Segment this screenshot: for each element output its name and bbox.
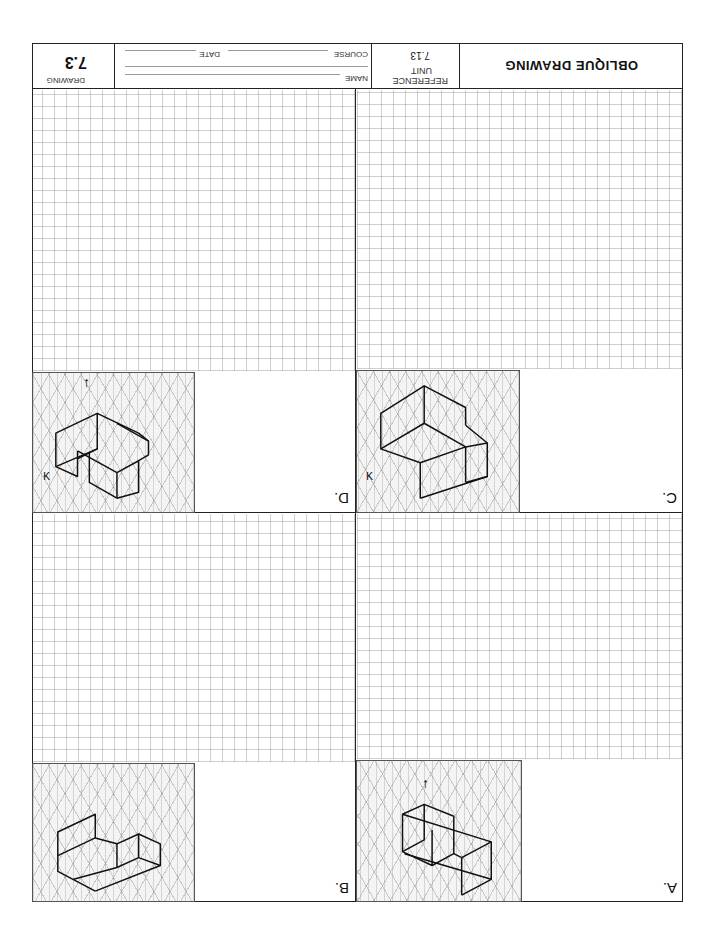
panel-c-isometric-view: K bbox=[356, 370, 520, 513]
panel-b-graph-paper[interactable] bbox=[33, 514, 355, 762]
drawing-label: DRAWING bbox=[47, 76, 85, 85]
panel-d-direction-arrow-icon: ↑ bbox=[83, 374, 90, 390]
reference-cell: REFERENCE UNIT 7.13 bbox=[372, 43, 460, 89]
panel-d-isometric-view: ↑ K bbox=[32, 372, 195, 513]
panel-a-isometric-view: ↑ bbox=[356, 760, 522, 902]
panel-a-direction-arrow-icon: ↑ bbox=[422, 775, 429, 791]
panel-b-object-drawing bbox=[33, 764, 194, 901]
oblique-drawing-worksheet: OBLIQUE DRAWING REFERENCE UNIT 7.13 NAME… bbox=[0, 0, 715, 945]
unit-label: UNIT bbox=[411, 66, 432, 76]
panel-c-k-mark-icon: K bbox=[366, 471, 373, 482]
date-label: DATE bbox=[199, 50, 220, 59]
drawing-number: 7.3 bbox=[65, 53, 87, 71]
panel-b-isometric-view bbox=[32, 763, 195, 902]
date-field[interactable] bbox=[125, 50, 196, 51]
panel-d-label: D. bbox=[334, 490, 349, 507]
drawing-number-cell: DRAWING 7.3 bbox=[32, 43, 115, 89]
name-field-line-2 bbox=[125, 66, 368, 67]
course-label: COURSE bbox=[334, 50, 368, 59]
worksheet-title: OBLIQUE DRAWING bbox=[460, 43, 683, 89]
panel-d-object-drawing bbox=[33, 373, 194, 512]
panel-c-object-drawing bbox=[357, 371, 519, 512]
panel-c-label: C. bbox=[662, 490, 677, 507]
unit-value: 7.13 bbox=[411, 50, 430, 61]
name-field[interactable] bbox=[125, 74, 340, 75]
course-field[interactable] bbox=[228, 50, 328, 51]
reference-label: REFERENCE bbox=[392, 76, 448, 86]
name-label: NAME bbox=[345, 74, 368, 83]
panel-b-label: B. bbox=[335, 880, 349, 897]
panel-a-graph-paper[interactable] bbox=[357, 514, 682, 759]
student-info-cell: NAME COURSE DATE bbox=[115, 43, 372, 89]
panel-d-graph-paper[interactable] bbox=[33, 90, 355, 371]
panel-d-k-mark-icon: K bbox=[43, 471, 50, 482]
panel-c-graph-paper[interactable] bbox=[357, 90, 682, 369]
panel-a-object-drawing bbox=[357, 761, 521, 901]
panel-a-label: A. bbox=[663, 880, 677, 897]
